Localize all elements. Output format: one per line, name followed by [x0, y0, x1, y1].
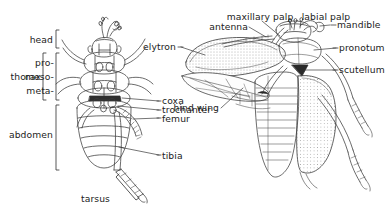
label-pronotum: pronotum	[339, 43, 385, 52]
label-pro: pro-	[35, 58, 54, 67]
brackets	[43, 30, 139, 200]
label-elytron: elytron	[143, 42, 176, 51]
label-meso: meso-	[25, 72, 54, 81]
left-metathorax	[78, 88, 130, 114]
right-abdomen	[255, 72, 299, 177]
left-hind-leg-stub	[77, 108, 94, 128]
leader-mandible	[320, 25, 330, 26]
left-mesothorax	[56, 70, 153, 94]
left-antennae	[99, 17, 122, 38]
leader-pronotum	[314, 48, 336, 50]
label-scutellum: scutellum	[339, 65, 385, 74]
leader-coxa	[122, 98, 159, 101]
leader-antenna	[249, 27, 266, 37]
left-head	[88, 37, 121, 57]
detached-elytron	[186, 37, 286, 76]
left-abdomen	[77, 100, 131, 168]
label-maxillary-palp: maxillary palp	[227, 12, 294, 21]
label-head: head	[30, 35, 53, 44]
label-tibia: tibia	[162, 151, 183, 160]
hind-wing	[182, 73, 269, 102]
leader-maxillary-palp	[262, 21, 280, 36]
bracket-abdomen	[56, 105, 59, 170]
right-elytron-in-place	[297, 76, 336, 174]
bracket-head	[56, 30, 59, 48]
label-hind-wing: hind wing	[173, 103, 219, 112]
label-femur: femur	[162, 114, 190, 123]
label-antenna: antenna	[209, 22, 248, 31]
right-pronotum	[279, 38, 321, 64]
label-tarsus: tarsus	[81, 194, 110, 203]
label-meta: meta-	[26, 86, 54, 95]
left-prothorax	[62, 39, 146, 74]
leader-tibia	[119, 147, 159, 155]
left-beetle-ventral	[56, 17, 153, 203]
beetle-anatomy-figure: head thorax pro- meso- meta- abdomen cox…	[0, 0, 390, 224]
label-abdomen: abdomen	[9, 130, 53, 139]
leader-trochanter	[118, 106, 159, 110]
label-mandible: mandible	[337, 20, 381, 29]
leader-femur	[133, 118, 159, 119]
bracket-tarsus	[116, 174, 139, 200]
